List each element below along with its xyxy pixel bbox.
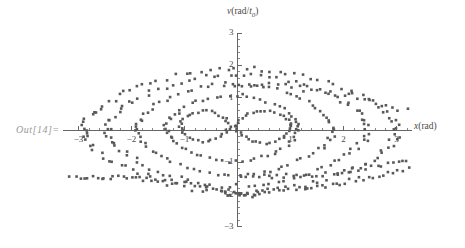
data-point bbox=[102, 177, 105, 180]
data-point bbox=[247, 173, 250, 176]
y-tick-label: −2 bbox=[216, 189, 234, 199]
data-point bbox=[363, 138, 366, 141]
data-point bbox=[205, 189, 208, 192]
data-point bbox=[405, 160, 408, 163]
data-point bbox=[319, 88, 322, 91]
data-point bbox=[312, 152, 315, 155]
x-tick-label: 2 bbox=[334, 134, 354, 144]
data-point bbox=[338, 159, 341, 162]
data-point bbox=[123, 175, 126, 178]
data-point bbox=[149, 82, 152, 85]
data-point bbox=[196, 154, 199, 157]
data-point bbox=[225, 117, 228, 120]
data-point bbox=[344, 94, 347, 97]
data-point bbox=[115, 100, 118, 103]
data-point bbox=[358, 176, 361, 179]
data-point bbox=[327, 119, 330, 122]
data-point bbox=[229, 128, 232, 131]
data-point bbox=[310, 88, 313, 91]
data-point bbox=[205, 109, 208, 112]
data-point bbox=[172, 84, 175, 87]
data-point bbox=[373, 160, 376, 163]
data-point bbox=[258, 176, 261, 179]
data-point bbox=[187, 90, 190, 93]
data-point bbox=[103, 132, 106, 135]
data-point bbox=[220, 135, 223, 138]
data-point bbox=[105, 135, 108, 138]
data-point bbox=[190, 151, 193, 154]
data-point bbox=[349, 148, 352, 151]
data-point bbox=[252, 112, 255, 115]
data-point bbox=[290, 122, 293, 125]
data-point bbox=[263, 191, 266, 194]
data-point bbox=[324, 186, 327, 189]
data-point bbox=[259, 98, 262, 101]
data-point bbox=[351, 92, 354, 95]
data-point bbox=[280, 165, 283, 168]
data-point bbox=[398, 160, 401, 163]
y-tick-label: 2 bbox=[216, 59, 234, 69]
data-point bbox=[261, 189, 264, 192]
data-point bbox=[266, 188, 269, 191]
data-point bbox=[170, 118, 173, 121]
data-point bbox=[240, 134, 243, 137]
data-point bbox=[331, 130, 334, 133]
data-point bbox=[356, 109, 359, 112]
data-point bbox=[396, 109, 399, 112]
data-point bbox=[86, 177, 89, 180]
data-point bbox=[135, 125, 138, 128]
data-point bbox=[250, 73, 253, 76]
data-point bbox=[332, 127, 335, 130]
data-point bbox=[274, 103, 277, 106]
data-point bbox=[377, 165, 380, 168]
data-point bbox=[348, 93, 351, 96]
data-point bbox=[233, 85, 236, 88]
data-point bbox=[199, 154, 202, 157]
data-point bbox=[329, 164, 332, 167]
data-point bbox=[190, 89, 193, 92]
data-point bbox=[360, 167, 363, 170]
data-point bbox=[278, 168, 281, 171]
data-point bbox=[83, 117, 86, 120]
data-point bbox=[119, 111, 122, 114]
data-point bbox=[209, 156, 212, 159]
x-tick-label: −3 bbox=[69, 134, 89, 144]
data-point bbox=[136, 161, 139, 164]
data-point bbox=[271, 177, 274, 180]
data-point bbox=[246, 68, 249, 71]
data-point bbox=[396, 169, 399, 172]
data-point bbox=[380, 151, 383, 154]
data-point bbox=[247, 138, 250, 141]
data-point bbox=[208, 183, 211, 186]
data-point bbox=[294, 118, 297, 121]
data-point bbox=[299, 176, 302, 179]
data-point bbox=[290, 86, 293, 89]
data-point bbox=[117, 174, 120, 177]
data-point bbox=[235, 127, 238, 130]
data-point bbox=[263, 173, 266, 176]
data-point bbox=[142, 180, 145, 183]
data-point bbox=[175, 73, 178, 76]
data-point bbox=[241, 117, 244, 120]
x-tick-label: 1 bbox=[281, 134, 301, 144]
data-point bbox=[287, 81, 290, 84]
data-point bbox=[256, 84, 259, 87]
data-point bbox=[149, 175, 152, 178]
data-point bbox=[189, 72, 192, 75]
data-point bbox=[288, 144, 291, 147]
data-point bbox=[297, 123, 300, 126]
data-point bbox=[91, 149, 94, 152]
data-point bbox=[148, 94, 151, 97]
data-point bbox=[317, 147, 320, 150]
data-point bbox=[214, 112, 217, 115]
data-point bbox=[183, 106, 186, 109]
data-point bbox=[348, 152, 351, 155]
data-point bbox=[136, 85, 139, 88]
data-point bbox=[92, 144, 95, 147]
data-point bbox=[240, 192, 243, 195]
data-point bbox=[230, 125, 233, 128]
scatter-points-group bbox=[68, 66, 411, 199]
data-point bbox=[284, 185, 287, 188]
data-point bbox=[227, 122, 230, 125]
data-point bbox=[268, 82, 271, 85]
